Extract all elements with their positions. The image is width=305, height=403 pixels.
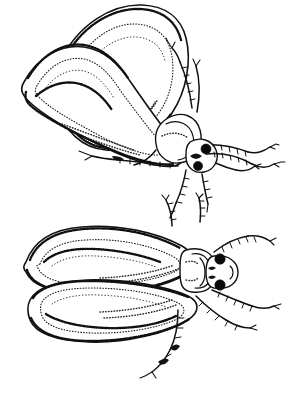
upper-insect-eye-right	[193, 161, 202, 170]
illustration-canvas	[0, 0, 305, 403]
insect-illustration-figure: Two insect specimens, pen-and-ink line d…	[0, 0, 305, 403]
upper-insect-eye-left	[201, 144, 211, 154]
lower-insect-eye-right	[215, 280, 225, 290]
lower-insect-eye-left	[215, 254, 225, 264]
